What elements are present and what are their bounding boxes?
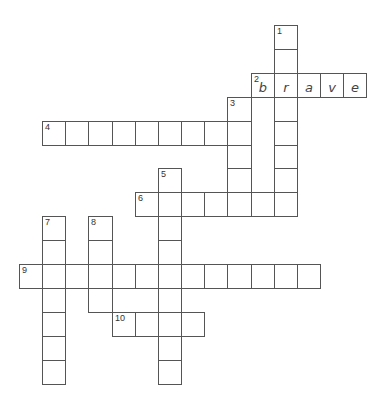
clue-number: 5 <box>161 170 166 179</box>
crossword-cell[interactable] <box>227 145 252 169</box>
crossword-cell[interactable] <box>181 192 205 217</box>
crossword-cell[interactable] <box>204 192 228 217</box>
clue-number: 8 <box>91 218 96 227</box>
clue-number: 9 <box>22 266 27 275</box>
crossword-cell[interactable] <box>42 240 66 265</box>
crossword-cell[interactable] <box>274 49 298 74</box>
crossword-cell[interactable] <box>181 312 205 337</box>
crossword-cell[interactable] <box>227 264 252 289</box>
crossword-cell[interactable]: v <box>320 73 344 98</box>
crossword-cell[interactable]: e <box>343 73 367 98</box>
crossword-cell[interactable] <box>274 264 298 289</box>
crossword-cell[interactable] <box>65 264 89 289</box>
crossword-cell[interactable] <box>181 264 205 289</box>
crossword-cell[interactable] <box>42 360 66 385</box>
crossword-cell[interactable] <box>88 264 113 289</box>
clue-number: 6 <box>138 194 143 203</box>
crossword-cell[interactable]: 4 <box>42 121 66 146</box>
cell-letter: v <box>321 80 343 95</box>
crossword-cell[interactable]: 10 <box>112 312 136 337</box>
cell-letter: r <box>275 80 297 95</box>
crossword-cell[interactable] <box>158 336 182 361</box>
crossword-cell[interactable] <box>227 168 252 193</box>
crossword-cell[interactable] <box>181 121 205 146</box>
crossword-cell[interactable]: 5 <box>158 168 182 193</box>
crossword-cell[interactable]: r <box>274 73 298 98</box>
cell-letter: a <box>298 80 320 95</box>
crossword-cell[interactable] <box>251 264 275 289</box>
crossword-cell[interactable] <box>112 264 136 289</box>
crossword-cell[interactable]: 1 <box>274 25 298 50</box>
crossword-cell[interactable] <box>42 264 66 289</box>
crossword-cell[interactable] <box>42 312 66 337</box>
crossword-cell[interactable] <box>274 97 298 122</box>
crossword-cell[interactable]: 2b <box>251 73 275 98</box>
crossword-cell[interactable] <box>158 192 182 217</box>
crossword-grid: 1r2bave345678910 <box>0 0 389 407</box>
crossword-cell[interactable] <box>204 121 228 146</box>
crossword-cell[interactable] <box>274 121 298 146</box>
crossword-cell[interactable] <box>112 121 136 146</box>
crossword-cell[interactable] <box>158 360 182 385</box>
crossword-cell[interactable] <box>135 264 159 289</box>
crossword-cell[interactable]: 7 <box>42 216 66 241</box>
crossword-cell[interactable] <box>158 216 182 241</box>
clue-number: 4 <box>45 123 50 132</box>
clue-number: 7 <box>45 218 50 227</box>
crossword-cell[interactable] <box>274 145 298 169</box>
crossword-cell[interactable] <box>158 121 182 146</box>
cell-letter: b <box>252 80 274 95</box>
crossword-cell[interactable] <box>204 264 228 289</box>
crossword-cell[interactable] <box>42 336 66 361</box>
crossword-cell[interactable]: 3 <box>227 97 252 122</box>
crossword-cell[interactable] <box>88 240 113 265</box>
crossword-cell[interactable]: a <box>297 73 321 98</box>
crossword-cell[interactable] <box>274 192 298 217</box>
crossword-cell[interactable] <box>135 121 159 146</box>
crossword-cell[interactable] <box>65 121 89 146</box>
cell-letter: e <box>344 80 366 95</box>
crossword-cell[interactable] <box>274 168 298 193</box>
crossword-cell[interactable] <box>158 312 182 337</box>
crossword-cell[interactable] <box>158 240 182 265</box>
crossword-cell[interactable] <box>251 192 275 217</box>
crossword-cell[interactable] <box>135 312 159 337</box>
crossword-cell[interactable]: 6 <box>135 192 159 217</box>
crossword-cell[interactable] <box>88 288 113 313</box>
crossword-cell[interactable] <box>158 288 182 313</box>
crossword-cell[interactable] <box>227 121 252 146</box>
crossword-cell[interactable] <box>297 264 321 289</box>
clue-number: 10 <box>115 314 125 323</box>
clue-number: 3 <box>230 99 235 108</box>
crossword-cell[interactable] <box>88 121 113 146</box>
crossword-cell[interactable] <box>42 288 66 313</box>
crossword-cell[interactable]: 8 <box>88 216 113 241</box>
clue-number: 1 <box>277 27 282 36</box>
crossword-cell[interactable] <box>158 264 182 289</box>
crossword-cell[interactable]: 9 <box>19 264 43 289</box>
crossword-cell[interactable] <box>227 192 252 217</box>
